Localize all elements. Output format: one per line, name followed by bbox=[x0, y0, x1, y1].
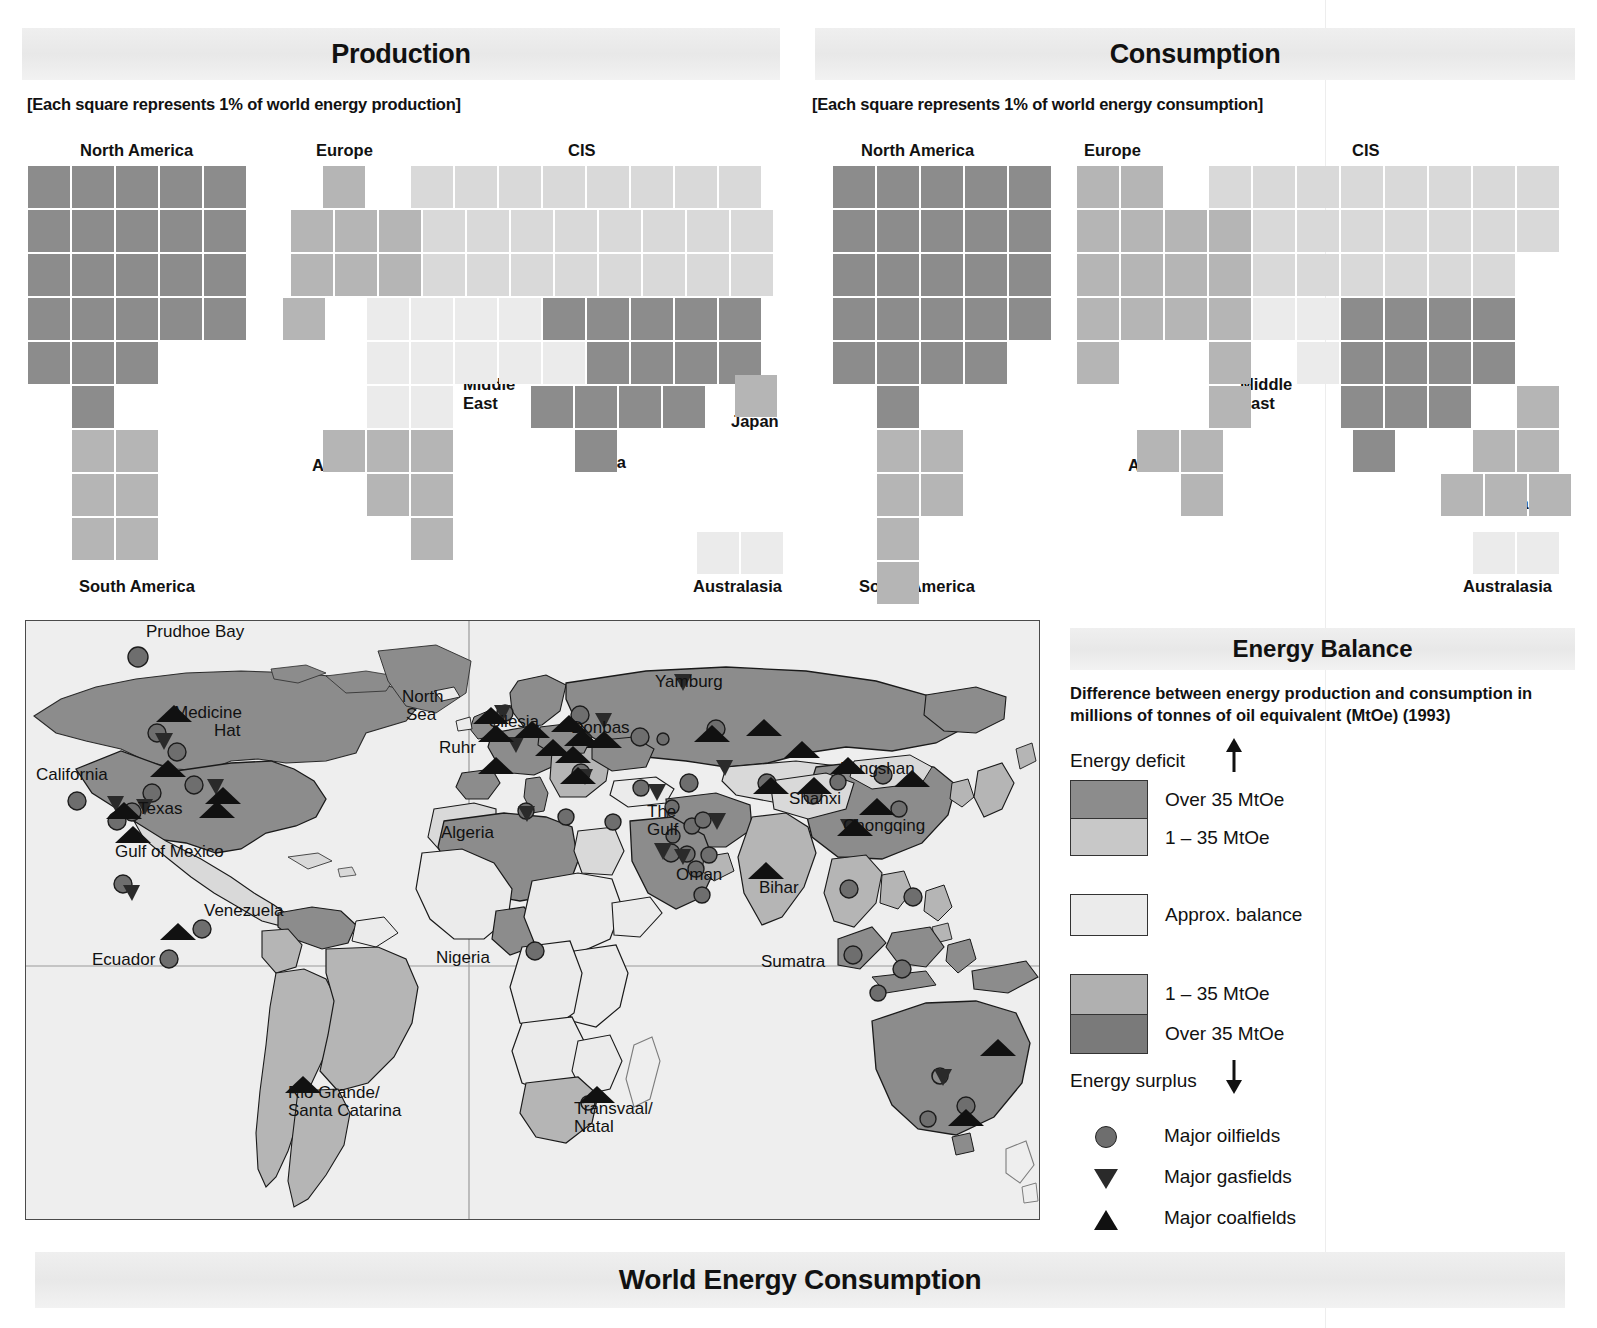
waffle-square bbox=[877, 166, 919, 208]
footer-title: World Energy Consumption bbox=[619, 1264, 982, 1296]
waffle-square bbox=[1209, 254, 1251, 296]
waffle-square bbox=[1077, 342, 1119, 384]
waffle-square bbox=[1165, 298, 1207, 340]
waffle-square bbox=[1353, 430, 1395, 472]
waffle-square bbox=[1009, 210, 1051, 252]
map-label: North bbox=[402, 688, 444, 706]
waffle-square bbox=[1341, 386, 1383, 428]
waffle-square bbox=[1077, 298, 1119, 340]
world-energy-balance-map[interactable]: Prudhoe Bay Medicine Hat California Texa… bbox=[25, 620, 1040, 1220]
map-label: Texas bbox=[138, 800, 182, 818]
waffle-square bbox=[877, 342, 919, 384]
waffle-square bbox=[1385, 166, 1427, 208]
legend-oilfields-label: Major oilfields bbox=[1164, 1125, 1280, 1147]
waffle-square bbox=[1209, 298, 1251, 340]
map-label: Hat bbox=[214, 722, 240, 740]
waffle-square bbox=[877, 430, 919, 472]
legend-coalfields-label: Major coalfields bbox=[1164, 1207, 1296, 1229]
waffle-square bbox=[1181, 474, 1223, 516]
cons-label-north-america: North America bbox=[861, 141, 974, 160]
triangle-up-icon bbox=[1094, 1210, 1118, 1230]
arrow-up-icon bbox=[1224, 738, 1244, 772]
banner-energy-balance: Energy Balance bbox=[1070, 628, 1575, 670]
waffle-square bbox=[1297, 342, 1339, 384]
banner-footer: World Energy Consumption bbox=[35, 1252, 1565, 1308]
waffle-square bbox=[921, 342, 963, 384]
map-label: Medicine bbox=[174, 704, 242, 722]
waffle-square bbox=[1473, 342, 1515, 384]
waffle-square bbox=[921, 298, 963, 340]
waffle-square bbox=[1209, 342, 1251, 384]
waffle-square bbox=[833, 298, 875, 340]
waffle-square bbox=[1429, 386, 1471, 428]
legend-swatch-deficit-over bbox=[1070, 780, 1148, 818]
map-label: Chongqing bbox=[843, 817, 925, 835]
legend-swatch-balance bbox=[1070, 894, 1148, 936]
waffle-square bbox=[1297, 166, 1339, 208]
waffle-square bbox=[1429, 166, 1471, 208]
waffle-square bbox=[1165, 210, 1207, 252]
waffle-square bbox=[1077, 254, 1119, 296]
waffle-square bbox=[1341, 254, 1383, 296]
waffle-square bbox=[877, 298, 919, 340]
map-label: Gulf of Mexico bbox=[115, 843, 224, 861]
waffle-square bbox=[1385, 210, 1427, 252]
waffle-square bbox=[877, 254, 919, 296]
waffle-square bbox=[1077, 210, 1119, 252]
waffle-square bbox=[921, 474, 963, 516]
waffle-square bbox=[1385, 342, 1427, 384]
waffle-square bbox=[1385, 386, 1427, 428]
legend-swatch-surplus-over bbox=[1070, 1014, 1148, 1054]
map-label: Nigeria bbox=[436, 949, 490, 967]
energy-balance-title: Energy Balance bbox=[1232, 635, 1412, 663]
waffle-square bbox=[833, 166, 875, 208]
waffle-square bbox=[1429, 298, 1471, 340]
waffle-square bbox=[1529, 474, 1571, 516]
waffle-square bbox=[1209, 166, 1251, 208]
waffle-square bbox=[1441, 474, 1483, 516]
map-label: Gulf bbox=[647, 821, 678, 839]
waffle-square bbox=[1429, 254, 1471, 296]
waffle-square bbox=[1121, 166, 1163, 208]
cons-label-cis: CIS bbox=[1352, 141, 1380, 160]
waffle-square bbox=[1341, 298, 1383, 340]
waffle-square bbox=[965, 210, 1007, 252]
waffle-square bbox=[1121, 210, 1163, 252]
waffle-square bbox=[921, 430, 963, 472]
legend-description: Difference between energy production and… bbox=[1070, 682, 1540, 726]
waffle-square bbox=[1253, 166, 1295, 208]
waffle-square bbox=[1137, 430, 1179, 472]
map-label: Sumatra bbox=[761, 953, 825, 971]
waffle-square bbox=[921, 210, 963, 252]
waffle-square bbox=[877, 210, 919, 252]
consumption-waffle-chart: North America Europe CIS Middle East Afr… bbox=[0, 0, 1597, 600]
waffle-square bbox=[1209, 386, 1251, 428]
waffle-square bbox=[921, 166, 963, 208]
map-label: The bbox=[647, 803, 676, 821]
waffle-square bbox=[1429, 342, 1471, 384]
circle-icon bbox=[1095, 1126, 1117, 1148]
waffle-square bbox=[877, 518, 919, 560]
waffle-square bbox=[1517, 166, 1559, 208]
waffle-square bbox=[1009, 298, 1051, 340]
waffle-square bbox=[965, 342, 1007, 384]
arrow-down-icon bbox=[1224, 1060, 1244, 1094]
waffle-square bbox=[877, 474, 919, 516]
legend-deficit-over-label: Over 35 MtOe bbox=[1165, 789, 1284, 811]
map-label: Sea bbox=[406, 706, 436, 724]
legend-deficit-range-label: 1 – 35 MtOe bbox=[1165, 827, 1270, 849]
map-label: Silesia bbox=[489, 713, 539, 731]
map-label: Venezuela bbox=[204, 902, 283, 920]
waffle-square bbox=[1517, 210, 1559, 252]
waffle-square bbox=[1009, 166, 1051, 208]
waffle-square bbox=[1473, 532, 1515, 574]
waffle-square bbox=[1253, 210, 1295, 252]
map-label: Algeria bbox=[441, 824, 494, 842]
legend-balance-label: Approx. balance bbox=[1165, 904, 1302, 926]
waffle-square bbox=[1517, 532, 1559, 574]
energy-balance-legend: Difference between energy production and… bbox=[1070, 682, 1580, 1222]
waffle-square bbox=[833, 254, 875, 296]
legend-swatch-deficit-range bbox=[1070, 818, 1148, 856]
waffle-square bbox=[833, 342, 875, 384]
waffle-square bbox=[833, 210, 875, 252]
